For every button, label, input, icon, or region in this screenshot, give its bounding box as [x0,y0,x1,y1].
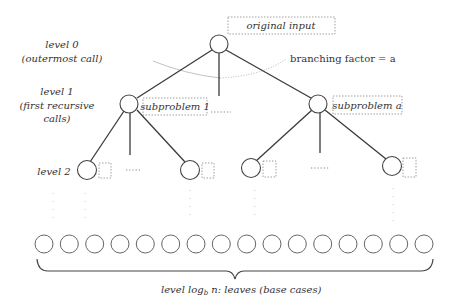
level-2-box [99,163,111,178]
subproblem-a-label: subproblem a [332,100,401,111]
level-0-description: (outermost call) [22,53,103,64]
leaf-node [288,235,306,253]
subproblem-1-node [120,95,138,113]
subproblem-1-label: subproblem 1 [140,101,210,112]
leaf-node [162,235,180,253]
recursion-tree-diagram: level 0 (outermost call) level 1 (first … [0,0,453,308]
level-2-node [181,161,200,180]
level-0-label: level 0 [45,39,79,50]
leaf-node [111,235,129,253]
level-1-description-line2: calls) [44,113,71,124]
level-1-left-edges [90,110,185,162]
level-1-label: level 1 [40,86,73,97]
leaf-node [238,235,256,253]
leaves-caption: level logb n: leaves (base cases) [161,284,322,297]
level-1-description-line1: (first recursive [19,100,94,111]
leaves-brace [37,259,433,279]
leaf-node [314,235,332,253]
vertical-ellipsis [53,188,393,222]
leaf-node [415,235,433,253]
leaf-node [364,235,382,253]
level-1-right-edges [256,110,386,161]
level-2-nodes [78,157,417,180]
leaf-node [390,235,408,253]
level-2-node [383,157,402,176]
level-2-box [202,163,214,178]
leaf-row [35,235,433,253]
level-2-node [78,161,97,180]
level-2-box [403,158,416,177]
leaf-node [212,235,230,253]
leaf-node [263,235,281,253]
level-2-node [242,159,261,178]
root-node [210,35,228,53]
subproblem-a-node [309,95,327,113]
branching-factor-label: branching factor = a [290,53,396,64]
leaf-node [136,235,154,253]
level-2-label: level 2 [37,166,70,177]
leaf-node [60,235,78,253]
leaf-node [86,235,104,253]
leaf-node [35,235,53,253]
original-input-label: original input [247,20,317,31]
leaf-node [187,235,205,253]
level-2-box [263,161,276,177]
leaf-node [339,235,357,253]
root-edges [137,50,311,98]
